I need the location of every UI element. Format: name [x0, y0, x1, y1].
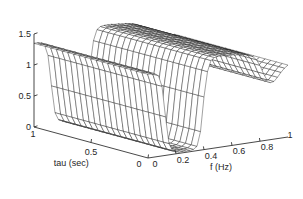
tau-tick-label-1: 0.5: [85, 147, 98, 157]
chart-canvas: 00.511.510.50tau (sec)00.20.40.60.81f (H…: [0, 0, 303, 199]
f-tick-label-5: 1: [287, 130, 292, 140]
tau-tick-1: [91, 139, 92, 143]
tau-tick-2: [148, 155, 149, 159]
f-axis-label: f (Hz): [210, 162, 232, 172]
f-tick-label-0: 0: [152, 159, 157, 169]
z-tick-label-2: 1: [26, 60, 31, 70]
surface-plot-svg: 00.511.510.50tau (sec)00.20.40.60.81f (H…: [0, 0, 303, 199]
z-tick-label-1: 0.5: [18, 91, 31, 101]
f-tick-label-1: 0.2: [177, 155, 190, 165]
z-tick-label-3: 1.5: [18, 29, 31, 39]
tau-tick-label-0: 1: [30, 129, 35, 139]
tau-tick-label-2: 0: [136, 159, 141, 169]
f-tick-label-2: 0.4: [205, 151, 218, 161]
f-tick-label-4: 0.8: [261, 142, 274, 152]
tau-axis-label: tau (sec): [54, 158, 89, 168]
f-tick-label-3: 0.6: [233, 146, 246, 156]
